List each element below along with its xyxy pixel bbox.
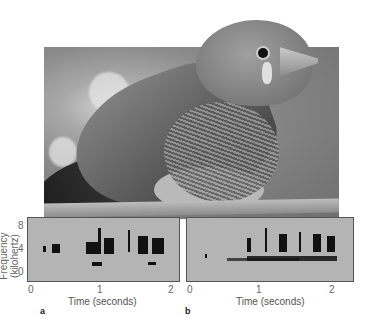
bird-eye [258,48,268,58]
spectrogram-a [27,217,180,282]
panel-label-b: b [185,306,191,316]
bird-breast [164,102,279,202]
a-x-tick-2: 2 [168,284,174,295]
b-x-tick-1: 1 [256,284,262,295]
spectrogram-b [186,217,354,282]
panel-label-a: a [40,306,45,316]
a-x-tick-0: 0 [28,284,34,295]
y-axis-title: Frequency (kilohertz) [0,211,20,301]
b-x-axis-title: Time (seconds) [236,296,305,307]
y-tick-8: 8 [18,220,24,231]
b-x-tick-0: 0 [187,284,193,295]
y-tick-0: 0 [18,266,24,277]
y-tick-4: 4 [18,243,24,254]
bird-cheek [262,62,272,84]
a-x-axis-title: Time (seconds) [68,296,137,307]
a-x-tick-1: 1 [97,284,103,295]
b-x-tick-2: 2 [329,284,335,295]
